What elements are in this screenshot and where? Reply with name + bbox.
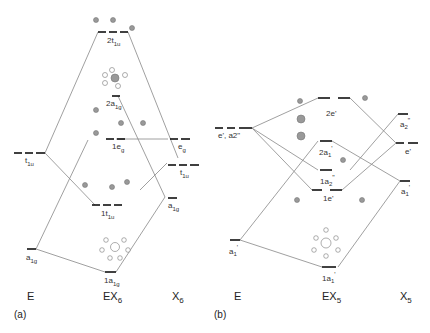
level-label-e-a2-left: e', a2" (218, 131, 240, 140)
level-label-a1-left: a1' (229, 244, 238, 257)
level-label-1t1u: 1t1u (101, 209, 114, 220)
level-label-a1g-left: a1g (26, 253, 37, 264)
level-label-1a1g: 1a1g (104, 276, 120, 287)
column-label-e-a: E (27, 290, 34, 302)
level-label-2t1u: 2t1u (107, 36, 120, 47)
level-label-2a1g: 2a1g (106, 99, 122, 110)
column-label-ex5: EX5 (322, 290, 341, 305)
level-label-e-right: e' (405, 147, 411, 156)
level-label-a1g-right: a1g (168, 201, 179, 212)
panel-tag-b: (b) (214, 309, 226, 320)
level-label-t1u-right: t1u (180, 168, 189, 179)
level-label-1a2: 1a2" (320, 174, 335, 187)
level-label-1e: 1e' (323, 194, 333, 203)
level-label-1a1: 1a1' (322, 271, 336, 284)
level-label-2e: 2e' (326, 109, 336, 118)
level-label-1eg: 1eg (112, 142, 124, 153)
level-label-eg-right: eg (178, 142, 186, 153)
level-label-2a1: 2a1' (319, 145, 333, 158)
energy-levels (14, 32, 418, 272)
level-label-t1u-left: t1u (25, 156, 34, 167)
column-label-e-b: E (234, 290, 241, 302)
level-label-a2-right: a2" (400, 117, 410, 130)
column-label-x5: X5 (400, 290, 412, 305)
column-label-x6: X6 (172, 290, 184, 305)
panel-tag-a: (a) (14, 309, 26, 320)
mo-diagram (0, 0, 430, 333)
correlation-lines (36, 32, 400, 272)
column-label-ex6: EX6 (103, 290, 122, 305)
level-label-a1-right: a1' (401, 184, 410, 197)
